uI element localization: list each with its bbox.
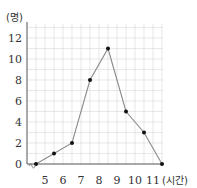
x-tick-labels: 567891011	[42, 174, 161, 187]
x-axis-unit-label: (시간)	[162, 175, 188, 186]
data-point-marker	[160, 162, 164, 166]
x-tick-label: 6	[60, 174, 67, 187]
y-axis-unit-label: (명)	[6, 12, 23, 23]
y-tick-label: 0	[15, 158, 22, 171]
frequency-polygon-chart: 024681012 567891011 (명) (시간)	[0, 0, 197, 188]
y-tick-label: 10	[8, 53, 22, 66]
grid	[27, 24, 163, 164]
y-tick-label: 8	[15, 74, 22, 87]
data-point-marker	[124, 110, 128, 114]
x-tick-label: 9	[114, 174, 121, 187]
data-point-marker	[106, 47, 110, 51]
x-tick-label: 8	[96, 174, 103, 187]
data-point-marker	[70, 141, 74, 145]
data-point-marker	[34, 162, 38, 166]
x-tick-label: 11	[146, 174, 160, 187]
data-point-marker	[142, 131, 146, 135]
x-tick-label: 7	[78, 174, 85, 187]
y-tick-label: 2	[15, 137, 22, 150]
data-point-marker	[88, 78, 92, 82]
x-tick-label: 10	[128, 174, 142, 187]
y-tick-label: 6	[15, 95, 22, 108]
y-tick-label: 12	[8, 32, 22, 45]
x-tick-label: 5	[42, 174, 49, 187]
axes	[27, 22, 163, 168]
data-point-marker	[52, 152, 56, 156]
y-tick-label: 4	[15, 116, 22, 129]
y-tick-labels: 024681012	[8, 32, 22, 171]
